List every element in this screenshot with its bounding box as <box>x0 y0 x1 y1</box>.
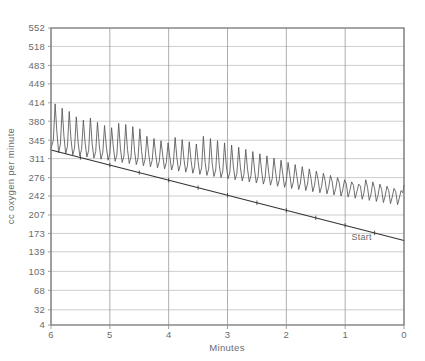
y-axis-tick-label: 207 <box>29 209 45 220</box>
x-axis-tick-label: 3 <box>225 329 230 340</box>
y-axis-tick-label: 68 <box>34 285 45 296</box>
y-axis-tick-label: 518 <box>29 41 45 52</box>
oxygen-debt-chart: 6543210 55251848344941438034531127624220… <box>0 0 425 361</box>
y-axis-tick-label: 483 <box>29 60 45 71</box>
y-axis-tick-label: 449 <box>29 78 45 89</box>
y-axis-title: cc oxygen per minute <box>5 128 16 224</box>
x-axis-tick-label: 1 <box>342 329 347 340</box>
y-axis-tick-label: 552 <box>29 22 45 33</box>
y-axis-tick-label: 276 <box>29 172 45 183</box>
y-axis-tick-label: 103 <box>29 266 45 277</box>
x-axis-tick-label: 4 <box>166 329 171 340</box>
y-axis-tick-label: 242 <box>29 190 45 201</box>
x-axis-tick-label: 2 <box>284 329 289 340</box>
x-axis-tick-label: 0 <box>401 329 406 340</box>
y-axis-tick-label: 139 <box>29 246 45 257</box>
y-axis-tick-label: 32 <box>34 304 45 315</box>
y-axis-tick-label: 414 <box>29 97 45 108</box>
x-axis-ticks: 6543210 <box>48 325 406 340</box>
x-axis-title: Minutes <box>209 342 244 353</box>
annotation-start-label: Start <box>351 232 372 242</box>
y-axis-tick-label: 173 <box>29 228 45 239</box>
y-axis-tick-label: 311 <box>29 153 45 164</box>
y-axis-ticks: 5525184834494143803453112762422071731391… <box>29 22 51 330</box>
y-axis-tick-label: 380 <box>29 116 45 127</box>
y-axis-tick-label: 345 <box>29 135 45 146</box>
y-axis-tick-label: 4 <box>40 319 45 330</box>
chart-canvas: 6543210 55251848344941438034531127624220… <box>0 0 425 361</box>
chart-annotations: Start <box>351 232 372 242</box>
x-axis-tick-label: 6 <box>48 329 53 340</box>
x-axis-tick-label: 5 <box>107 329 112 340</box>
